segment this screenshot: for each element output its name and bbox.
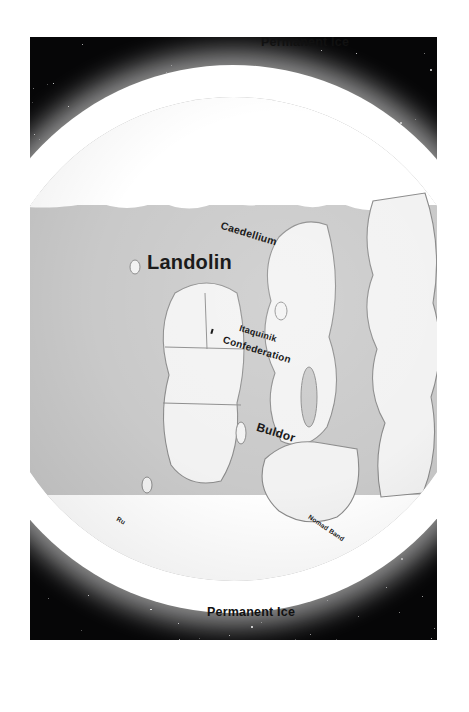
starfield-panel: Permanent Ice Permanent Ice Landolin Cae… — [30, 37, 437, 640]
globe-stage: Permanent Ice Permanent Ice Landolin Cae… — [30, 37, 437, 640]
island-small-1 — [275, 302, 287, 320]
inland-sea — [301, 367, 317, 427]
landmass-landolin — [163, 283, 244, 483]
island-caedellium — [130, 260, 140, 274]
map-page: Permanent Ice Permanent Ice Landolin Cae… — [0, 0, 469, 712]
island-small-2 — [236, 422, 246, 444]
label-permanent-ice-east: Permanent Ice — [207, 605, 295, 619]
label-permanent-ice-west: Permanent Ice — [261, 37, 349, 49]
ice-cap-east — [30, 495, 437, 581]
ice-cap-west — [30, 97, 437, 205]
island-small-3 — [142, 477, 152, 493]
label-landolin: Landolin — [147, 251, 232, 274]
